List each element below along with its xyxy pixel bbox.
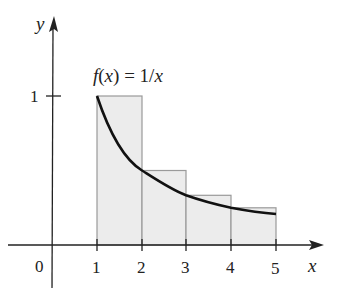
y-tick-label-1: 1 bbox=[30, 87, 39, 106]
y-axis-label: y bbox=[34, 13, 45, 34]
riemann-rectangles bbox=[97, 96, 276, 245]
x-tick-label-5: 5 bbox=[271, 259, 280, 278]
function-label-x2: x bbox=[153, 65, 163, 86]
axes bbox=[8, 16, 324, 288]
origin-label: 0 bbox=[35, 257, 44, 276]
x-tick-label-1: 1 bbox=[92, 258, 101, 277]
rectangle-1 bbox=[97, 96, 142, 245]
x-tick-label-4: 4 bbox=[226, 258, 235, 277]
riemann-sum-diagram: y x 0 1 1 2 3 4 5 f(x) = 1/x bbox=[0, 0, 344, 293]
x-tick-label-3: 3 bbox=[181, 258, 190, 277]
rectangle-2 bbox=[142, 171, 186, 246]
x-axis-label: x bbox=[307, 255, 317, 276]
x-tick-label-2: 2 bbox=[137, 258, 146, 277]
function-label: f(x) = 1/x bbox=[93, 65, 163, 87]
y-axis bbox=[52, 26, 53, 288]
function-label-equals: = 1/ bbox=[119, 65, 155, 86]
